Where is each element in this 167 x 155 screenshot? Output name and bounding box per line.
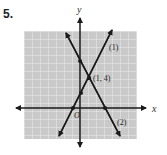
coordinate-graph: y x O (1, 4) (1) (2): [0, 0, 167, 155]
point-line2-yint: [78, 59, 82, 63]
y-axis-label: y: [76, 4, 82, 15]
point-intersection: [87, 76, 91, 80]
point-line1-yint: [79, 91, 83, 95]
line-2-label: (2): [117, 118, 127, 127]
origin-label: O: [74, 111, 80, 120]
point-line2-xint: [103, 106, 107, 110]
line-1-label: (1): [109, 43, 119, 52]
x-axis-label: x: [151, 103, 157, 114]
point-line1-xint: [71, 106, 75, 110]
intersection-label: (1, 4): [93, 74, 111, 83]
